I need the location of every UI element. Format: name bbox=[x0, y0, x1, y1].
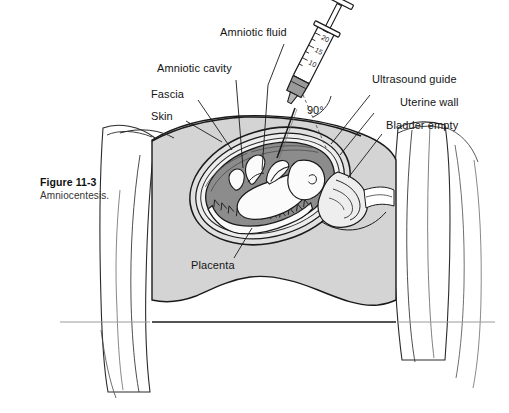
amniocentesis-illustration: 20 15 10 bbox=[0, 0, 509, 413]
label-placenta: Placenta bbox=[191, 259, 235, 272]
label-ultrasound-guide: Ultrasound guide bbox=[372, 73, 457, 86]
label-fascia: Fascia bbox=[151, 88, 184, 101]
label-amniotic-fluid: Amniotic fluid bbox=[220, 26, 287, 39]
label-angle-90: 90° bbox=[307, 104, 324, 116]
leader-amniotic-fluid bbox=[268, 44, 284, 85]
figure-page: 20 15 10 Amniotic fluid Amniotic cavity … bbox=[0, 0, 509, 413]
drape-left bbox=[100, 125, 155, 398]
label-bladder-empty: Bladder empty bbox=[386, 119, 458, 132]
figure-number: Figure 11-3 bbox=[40, 176, 97, 188]
label-amniotic-cavity: Amniotic cavity bbox=[157, 62, 232, 75]
syringe-barrel bbox=[293, 26, 334, 84]
syringe: 20 15 10 bbox=[277, 0, 355, 109]
label-skin: Skin bbox=[151, 110, 173, 123]
figure-caption: Amniocentesis. bbox=[40, 190, 109, 201]
label-uterine-wall: Uterine wall bbox=[400, 96, 459, 109]
drape-right bbox=[394, 122, 482, 388]
